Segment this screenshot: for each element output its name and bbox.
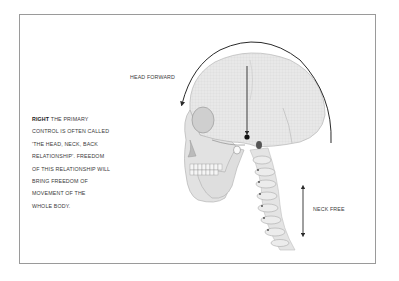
caption-line: MOVEMENT OF THE: [32, 187, 142, 199]
neck-free-label: NECK FREE: [313, 206, 345, 212]
caption-line: 'THE HEAD, NECK, BACK: [32, 138, 142, 150]
pivot-point: [244, 134, 249, 139]
head-forward-label: HEAD FORWARD: [130, 74, 175, 80]
caption-line: BRING FREEDOM OF: [32, 175, 142, 187]
cervical-spine: [250, 148, 295, 250]
figure-caption: RIGHT THE PRIMARY CONTROL IS OFTEN CALLE…: [32, 113, 142, 212]
skull: [185, 53, 326, 202]
caption-line: CONTROL IS OFTEN CALLED: [32, 125, 142, 137]
caption-line: RIGHT THE PRIMARY: [32, 113, 142, 125]
caption-line: WHOLE BODY.: [32, 200, 142, 212]
caption-line: RELATIONSHIP'. FREEDOM: [32, 150, 142, 162]
caption-line: OF THIS RELATIONSHIP WILL: [32, 163, 142, 175]
caption-lead: RIGHT: [32, 116, 49, 122]
